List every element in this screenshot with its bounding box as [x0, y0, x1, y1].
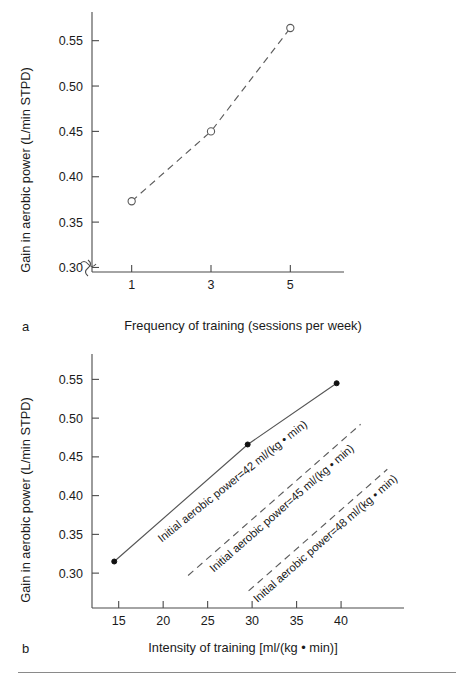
- y-tick-label: 0.30: [59, 261, 83, 275]
- y-tick-label: 0.40: [59, 170, 83, 184]
- data-point-marker: [245, 442, 250, 447]
- panel-a-axes: [80, 12, 344, 276]
- panel-b-annotations: Initial aerobic power=42 ml/(kg • min)In…: [155, 418, 399, 605]
- annotation-group: Initial aerobic power=42 ml/(kg • min): [155, 418, 309, 545]
- panel-b-x-tick-labels: 152025303540: [112, 614, 348, 628]
- panel-a-x-tick-labels: 135: [128, 278, 294, 292]
- footer-rule: [18, 672, 456, 673]
- panel-a-y-tick-labels: 0.300.350.400.450.500.55: [59, 34, 83, 275]
- panel-b: Initial aerobic power=42 ml/(kg • min)In…: [0, 340, 474, 682]
- series-line: [249, 469, 388, 591]
- x-tick-label: 25: [201, 614, 215, 628]
- data-point-marker: [334, 381, 339, 386]
- y-tick-label: 0.30: [59, 567, 83, 581]
- y-tick-label: 0.35: [59, 216, 83, 230]
- y-tick-label: 0.45: [59, 450, 83, 464]
- x-tick-label: 35: [290, 614, 304, 628]
- series-annotation: Initial aerobic power=48 ml/(kg • min): [251, 472, 400, 605]
- series-annotation: Initial aerobic power=42 ml/(kg • min): [155, 418, 309, 545]
- panel-a-plot: 0.300.350.400.450.500.55 135: [0, 0, 474, 340]
- annotation-group: Initial aerobic power=45 ml/(kg • min): [207, 442, 356, 575]
- x-tick-label: 30: [245, 614, 259, 628]
- x-tick-label: 5: [287, 278, 294, 292]
- data-point-marker: [287, 24, 294, 31]
- panel-b-axes: [92, 354, 404, 608]
- y-tick-label: 0.50: [59, 412, 83, 426]
- y-tick-label: 0.45: [59, 125, 83, 139]
- series-line: [114, 383, 336, 561]
- panel-b-y-tick-labels: 0.300.350.400.450.500.55: [59, 373, 83, 581]
- x-tick-label: 1: [128, 278, 135, 292]
- y-tick-label: 0.55: [59, 34, 83, 48]
- panel-b-plot: Initial aerobic power=42 ml/(kg • min)In…: [0, 340, 474, 682]
- panel-a: 0.300.350.400.450.500.55 135 Gain in aer…: [0, 0, 474, 340]
- series-line: [132, 28, 291, 201]
- annotation-group: Initial aerobic power=48 ml/(kg • min): [251, 472, 400, 605]
- y-tick-label: 0.35: [59, 528, 83, 542]
- y-tick-label: 0.50: [59, 80, 83, 94]
- x-tick-label: 20: [156, 614, 170, 628]
- panel-b-series: [112, 381, 388, 591]
- panel-a-series: [128, 24, 294, 204]
- x-tick-label: 40: [334, 614, 348, 628]
- y-tick-label: 0.55: [59, 373, 83, 387]
- figure-container: 0.300.350.400.450.500.55 135 Gain in aer…: [0, 0, 474, 682]
- data-point-marker: [112, 559, 117, 564]
- series-annotation: Initial aerobic power=45 ml/(kg • min): [207, 442, 356, 575]
- data-point-marker: [207, 128, 214, 135]
- x-tick-label: 15: [112, 614, 126, 628]
- x-tick-label: 3: [208, 278, 215, 292]
- y-tick-label: 0.40: [59, 489, 83, 503]
- data-point-marker: [128, 198, 135, 205]
